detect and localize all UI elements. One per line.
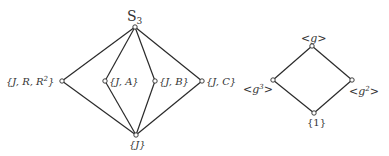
label-g2: <g2> bbox=[349, 85, 379, 98]
edge-ja-j bbox=[105, 81, 136, 135]
node-jc bbox=[200, 79, 204, 83]
edge-s3-ja bbox=[105, 27, 135, 81]
cyclic-lattice-nodes bbox=[271, 44, 354, 115]
diagram-canvas: S3 {J, R, R2} {J, A} {J, B} {J, C} {J} <… bbox=[0, 0, 389, 156]
edge-g-g2 bbox=[312, 46, 352, 80]
node-g3 bbox=[271, 78, 275, 82]
cyclic-lattice-edges bbox=[273, 46, 352, 113]
label-ja: {J, A} bbox=[109, 76, 139, 87]
label-s3: S3 bbox=[127, 8, 143, 26]
node-j bbox=[134, 133, 138, 137]
edge-s3-jrr2 bbox=[62, 27, 135, 81]
node-one bbox=[312, 111, 316, 115]
label-jc: {J, C} bbox=[206, 76, 236, 87]
edge-g-g3 bbox=[273, 46, 312, 80]
label-g3: <g3> bbox=[243, 83, 273, 96]
node-jb bbox=[153, 79, 157, 83]
node-g2 bbox=[350, 78, 354, 82]
label-one: {1} bbox=[307, 117, 326, 128]
node-ja bbox=[103, 79, 107, 83]
edge-jrr2-j bbox=[62, 81, 136, 135]
node-jrr2 bbox=[60, 79, 64, 83]
label-j: {J} bbox=[129, 139, 146, 150]
label-g: <g> bbox=[301, 32, 326, 45]
label-jb: {J, B} bbox=[159, 76, 189, 87]
label-jrr2: {J, R, R2} bbox=[6, 75, 54, 87]
edge-g2-one bbox=[314, 80, 352, 113]
edge-g3-one bbox=[273, 80, 314, 113]
